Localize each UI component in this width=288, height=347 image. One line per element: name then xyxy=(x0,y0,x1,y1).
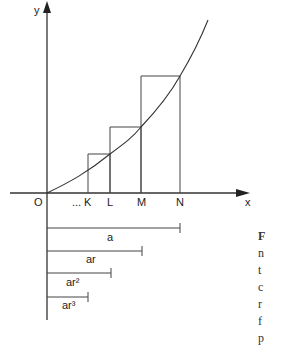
point-l-label: L xyxy=(107,196,113,208)
point-k-label: K xyxy=(84,196,92,208)
segment-ar-label: ar xyxy=(86,253,96,265)
caption-line-3: c xyxy=(258,279,288,296)
caption-line-1: n xyxy=(258,245,288,262)
caption-line-5: f xyxy=(258,313,288,330)
point-n-label: N xyxy=(176,196,184,208)
y-axis-arrow-icon xyxy=(43,1,51,13)
caption-fragment: F n t c r f p xyxy=(258,228,288,347)
segment-a-label: a xyxy=(107,231,114,243)
caption-line-6: p xyxy=(258,330,288,347)
y-axis-label: y xyxy=(34,4,40,16)
ellipsis-label: ... xyxy=(72,196,81,208)
segment-ar3-label: ar³ xyxy=(62,299,76,311)
x-axis-label: x xyxy=(245,196,251,208)
caption-line-2: t xyxy=(258,262,288,279)
segment-ar2-label: ar² xyxy=(66,276,80,288)
caption-line-4: r xyxy=(258,296,288,313)
rect-l-m xyxy=(110,127,141,193)
segments xyxy=(47,223,180,302)
exponential-curve xyxy=(47,20,208,193)
rect-m-n xyxy=(141,76,180,193)
point-m-label: M xyxy=(137,196,146,208)
rect-k-l xyxy=(88,154,110,193)
origin-label: O xyxy=(34,196,43,208)
caption-line-0: F xyxy=(258,229,265,243)
